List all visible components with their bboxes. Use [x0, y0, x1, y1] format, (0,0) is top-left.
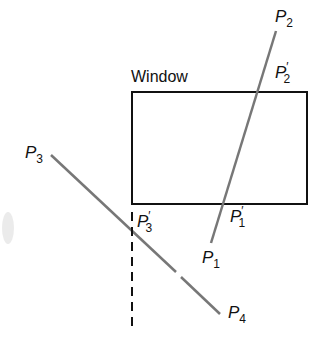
- label-p4: P4: [228, 303, 246, 326]
- svg-text:P1: P1: [202, 248, 220, 271]
- label-p1: P1: [202, 248, 220, 271]
- window-rectangle: [132, 92, 307, 204]
- svg-text:P2: P2: [275, 7, 293, 30]
- clipping-diagram: Window P2 P′2 P3 P′3 P′1 P1 P4: [0, 0, 328, 351]
- svg-text:P′2: P′2: [275, 60, 291, 86]
- label-p3-prime: P′3: [137, 209, 153, 235]
- svg-text:P3: P3: [25, 143, 43, 166]
- label-p2: P2: [275, 7, 293, 30]
- label-p1-prime: P′1: [230, 204, 246, 230]
- smudge-artifact: [2, 212, 14, 244]
- svg-text:P′1: P′1: [230, 204, 246, 230]
- line-p3-p4-segment-b: [181, 277, 220, 314]
- label-p3: P3: [25, 143, 43, 166]
- window-label: Window: [131, 68, 188, 85]
- svg-text:P4: P4: [228, 303, 246, 326]
- svg-text:P′3: P′3: [137, 209, 153, 235]
- line-p3-p4-segment-a: [51, 155, 176, 272]
- label-p2-prime: P′2: [275, 60, 291, 86]
